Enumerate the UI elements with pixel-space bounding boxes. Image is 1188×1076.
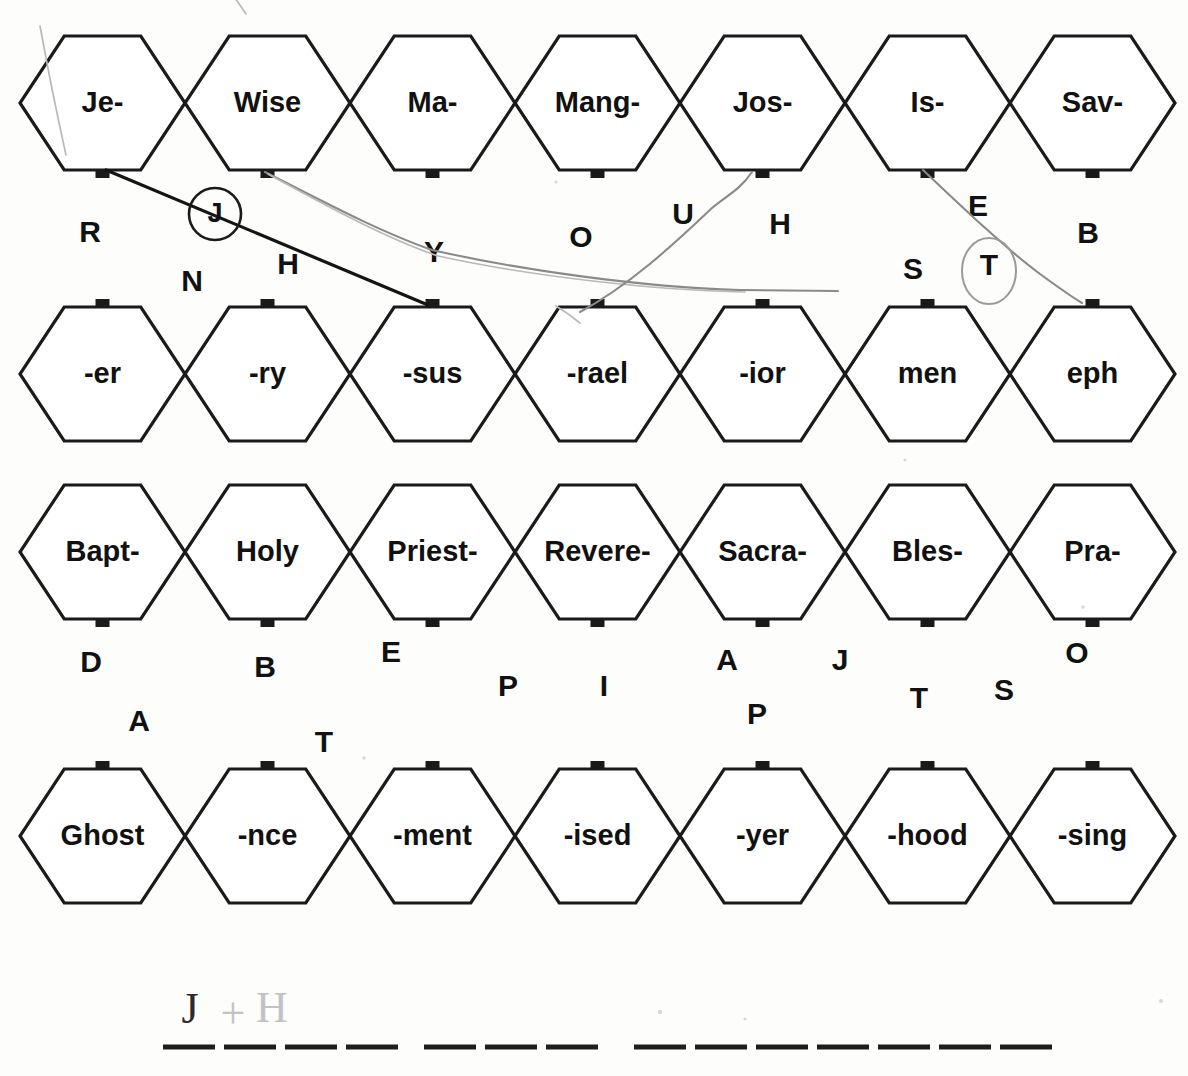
hex-connector-tab[interactable] xyxy=(1086,169,1100,178)
floating-letter[interactable]: R xyxy=(79,215,101,248)
hex-cell[interactable]: -er xyxy=(20,299,185,441)
connector-line-is-eph[interactable] xyxy=(923,170,1082,303)
hex-label: Wise xyxy=(234,86,301,118)
hex-label: -sing xyxy=(1058,819,1127,851)
floating-letter[interactable]: T xyxy=(315,725,333,758)
floating-letter[interactable]: E xyxy=(968,189,988,222)
hex-cell[interactable]: Is- xyxy=(845,36,1010,178)
hex-connector-tab[interactable] xyxy=(426,761,440,770)
hex-connector-tab[interactable] xyxy=(756,618,770,627)
floating-letter[interactable]: U xyxy=(672,197,694,230)
hex-cell[interactable]: Priest- xyxy=(350,485,515,627)
hex-connector-tab[interactable] xyxy=(591,761,605,770)
hex-connector-tab[interactable] xyxy=(261,299,275,308)
circled-letter-j: J xyxy=(207,198,222,228)
worksheet-page: Je-WiseMa-Mang-Jos-Is-Sav--er-ry-sus-rae… xyxy=(0,0,1188,1076)
floating-letter[interactable]: P xyxy=(747,697,767,730)
hex-connector-tab[interactable] xyxy=(96,618,110,627)
hex-connector-tab[interactable] xyxy=(591,299,605,308)
hex-cell[interactable]: -nce xyxy=(185,761,350,903)
hex-label: eph xyxy=(1067,357,1119,389)
row-1-prefixes: Je-WiseMa-Mang-Jos-Is-Sav- xyxy=(20,36,1175,178)
hex-connector-tab[interactable] xyxy=(756,299,770,308)
hex-cell[interactable]: Je- xyxy=(20,36,185,178)
hex-connector-tab[interactable] xyxy=(261,618,275,627)
hex-cell[interactable]: -sing xyxy=(1010,761,1175,903)
hex-label: Pra- xyxy=(1064,535,1120,567)
connector-line-je-sus[interactable] xyxy=(106,170,428,305)
floating-letter[interactable]: N xyxy=(181,264,203,297)
floating-letter[interactable]: J xyxy=(832,643,849,676)
row-2-suffixes: -er-ry-sus-rael-iormeneph xyxy=(20,299,1175,441)
hex-cell[interactable]: -hood xyxy=(845,761,1010,903)
hex-cell[interactable]: Jos- xyxy=(680,36,845,178)
hex-cell[interactable]: Bles- xyxy=(845,485,1010,627)
hex-cell[interactable]: -ior xyxy=(680,299,845,441)
row-3-prefixes: Bapt-HolyPriest-Revere-Sacra-Bles-Pra- xyxy=(20,485,1175,627)
hex-connector-tab[interactable] xyxy=(426,618,440,627)
hex-label: -nce xyxy=(238,819,298,851)
floating-letter[interactable]: S xyxy=(903,252,923,285)
floating-letter[interactable]: O xyxy=(569,220,592,253)
hex-cell[interactable]: Ghost xyxy=(20,761,185,903)
hex-cell[interactable]: -ry xyxy=(185,299,350,441)
hex-label: Ma- xyxy=(408,86,458,118)
hex-connector-tab[interactable] xyxy=(921,299,935,308)
hex-cell[interactable]: Wise xyxy=(185,36,350,178)
hex-label: Bapt- xyxy=(65,535,139,567)
floating-letter[interactable]: B xyxy=(1077,216,1099,249)
hex-connector-tab[interactable] xyxy=(921,761,935,770)
hex-connector-tab[interactable] xyxy=(1086,299,1100,308)
hex-cell[interactable]: Bapt- xyxy=(20,485,185,627)
hex-label: Holy xyxy=(236,535,299,567)
hex-cell[interactable]: Sav- xyxy=(1010,36,1175,178)
row-4-suffixes: Ghost-nce-ment-ised-yer-hood-sing xyxy=(20,761,1175,903)
puzzle-board: Je-WiseMa-Mang-Jos-Is-Sav--er-ry-sus-rae… xyxy=(0,0,1188,1076)
hex-cell[interactable]: -ised xyxy=(515,761,680,903)
hex-connector-tab[interactable] xyxy=(426,169,440,178)
floating-letter[interactable]: I xyxy=(600,669,608,702)
hex-connector-tab[interactable] xyxy=(921,618,935,627)
hex-cell[interactable]: Pra- xyxy=(1010,485,1175,627)
hex-label: Je- xyxy=(82,86,124,118)
hex-label: -ised xyxy=(564,819,632,851)
floating-letter[interactable]: E xyxy=(381,635,401,668)
floating-letter[interactable]: S xyxy=(994,673,1014,706)
hex-label: Sav- xyxy=(1062,86,1123,118)
hex-connector-tab[interactable] xyxy=(1086,618,1100,627)
hex-cell[interactable]: Sacra- xyxy=(680,485,845,627)
hex-connector-tab[interactable] xyxy=(591,169,605,178)
handwriting-layer: J+H xyxy=(181,983,287,1038)
floating-letter[interactable]: T xyxy=(910,681,928,714)
hex-cell[interactable]: Revere- xyxy=(515,485,680,627)
floating-letter[interactable]: H xyxy=(769,207,791,240)
hex-cell[interactable]: Holy xyxy=(185,485,350,627)
floating-letter[interactable]: P xyxy=(498,669,518,702)
hex-connector-tab[interactable] xyxy=(756,761,770,770)
floating-letter[interactable]: O xyxy=(1065,636,1088,669)
hex-cell[interactable]: eph xyxy=(1010,299,1175,441)
hex-connector-tab[interactable] xyxy=(96,761,110,770)
hex-connector-tab[interactable] xyxy=(1086,761,1100,770)
connector-line-wise-rael-ghost xyxy=(268,174,745,292)
floating-letter[interactable]: H xyxy=(277,247,299,280)
hex-label: Is- xyxy=(911,86,945,118)
hex-connector-tab[interactable] xyxy=(591,618,605,627)
hex-connector-tab[interactable] xyxy=(96,299,110,308)
hex-cell[interactable]: men xyxy=(845,299,1010,441)
floating-letter[interactable]: A xyxy=(716,643,738,676)
handwritten-answer: + xyxy=(221,989,246,1038)
hex-label: Priest- xyxy=(387,535,477,567)
floating-letter[interactable]: A xyxy=(128,704,150,737)
hex-connector-tab[interactable] xyxy=(261,761,275,770)
hex-connector-tab[interactable] xyxy=(756,169,770,178)
floating-letter[interactable]: T xyxy=(980,248,998,281)
hex-cell[interactable]: -ment xyxy=(350,761,515,903)
hex-cell[interactable]: Mang- xyxy=(515,36,680,178)
floating-letter[interactable]: B xyxy=(254,650,276,683)
hex-cell[interactable]: Ma- xyxy=(350,36,515,178)
hex-cell[interactable]: -sus xyxy=(350,299,515,441)
hex-cell[interactable]: -rael xyxy=(515,299,680,441)
floating-letter[interactable]: D xyxy=(80,645,102,678)
hex-cell[interactable]: -yer xyxy=(680,761,845,903)
